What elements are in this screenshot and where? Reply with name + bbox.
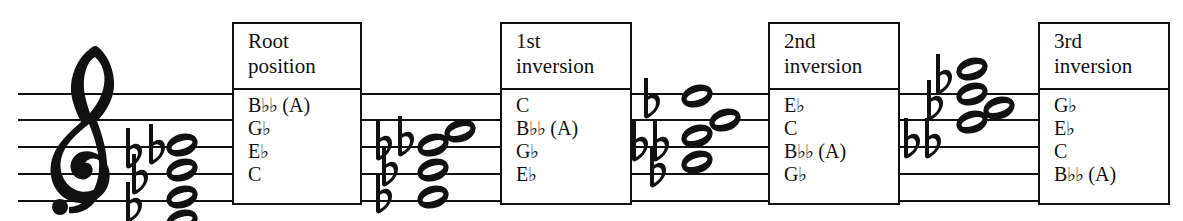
note-line: G♭ xyxy=(1054,94,1168,117)
note-line: G♭ xyxy=(248,117,360,140)
note-line: C xyxy=(1054,140,1168,163)
notehead xyxy=(416,185,450,209)
box-title-line2: inversion xyxy=(516,54,630,79)
chord-group-third-inversion xyxy=(900,0,1038,221)
flat-symbol: ♭♭ xyxy=(529,118,545,139)
note-letter: B xyxy=(1054,163,1067,185)
flat-icon xyxy=(372,171,394,215)
flat-symbol: ♭ xyxy=(1068,95,1076,116)
title-cell: 2nd inversion xyxy=(770,24,898,90)
notehead xyxy=(416,158,450,182)
note-letter: G xyxy=(1054,94,1068,116)
note-line: B♭♭ (A) xyxy=(516,117,630,140)
title-cell: Root position xyxy=(234,24,360,90)
note-letter: B xyxy=(516,117,529,139)
flat-symbol: ♭♭ xyxy=(261,95,277,116)
note-alt: (A) xyxy=(1083,163,1116,185)
flat-symbol: ♭♭ xyxy=(1067,164,1083,185)
note-line: E♭ xyxy=(516,163,630,186)
box-title-line1: 1st xyxy=(516,29,630,54)
note-alt: (A) xyxy=(813,140,846,162)
notehead xyxy=(165,133,199,157)
note-letter: C xyxy=(516,94,529,116)
note-letter: G xyxy=(784,163,798,185)
notehead xyxy=(165,158,199,182)
chord-group-root-position xyxy=(0,0,232,221)
flat-icon xyxy=(640,76,662,120)
note-alt: (A) xyxy=(545,117,578,139)
note-line: B♭♭ (A) xyxy=(248,94,360,117)
box-title-line2: position xyxy=(248,54,360,79)
note-letter: B xyxy=(248,94,261,116)
flat-symbol: ♭♭ xyxy=(797,141,813,162)
note-letter: E xyxy=(516,163,528,185)
notehead xyxy=(165,209,199,221)
flat-symbol: ♭ xyxy=(798,164,806,185)
flat-symbol: ♭ xyxy=(262,118,270,139)
note-letter: C xyxy=(784,117,797,139)
flat-icon xyxy=(900,116,922,160)
note-letter: G xyxy=(516,140,530,162)
flat-symbol: ♭ xyxy=(1066,118,1074,139)
note-line: B♭♭ (A) xyxy=(784,140,898,163)
label-box-root-position: Root position B♭♭ (A) G♭ E♭ C xyxy=(232,22,362,205)
notehead xyxy=(680,150,714,174)
notehead xyxy=(955,110,989,134)
notes-cell: B♭♭ (A) G♭ E♭ C xyxy=(234,90,360,186)
flat-icon xyxy=(646,145,668,189)
box-title-line2: inversion xyxy=(1054,54,1168,79)
notes-cell: G♭ E♭ C B♭♭ (A) xyxy=(1040,90,1168,186)
note-alt: (A) xyxy=(277,94,310,116)
notehead xyxy=(680,84,714,108)
note-line: E♭ xyxy=(248,140,360,163)
notehead xyxy=(680,124,714,148)
label-box-second-inversion: 2nd inversion E♭ C B♭♭ (A) G♭ xyxy=(768,22,900,205)
note-line: E♭ xyxy=(784,94,898,117)
note-line: C xyxy=(784,117,898,140)
box-title-line2: inversion xyxy=(784,54,898,79)
note-line: G♭ xyxy=(784,163,898,186)
note-line: B♭♭ (A) xyxy=(1054,163,1168,186)
note-letter: E xyxy=(1054,117,1066,139)
notes-cell: E♭ C B♭♭ (A) G♭ xyxy=(770,90,898,186)
notehead xyxy=(955,57,989,81)
label-box-third-inversion: 3rd inversion G♭ E♭ C B♭♭ (A) xyxy=(1038,22,1170,205)
note-line: E♭ xyxy=(1054,117,1168,140)
note-letter: B xyxy=(784,140,797,162)
note-letter: G xyxy=(248,117,262,139)
notehead xyxy=(416,133,450,157)
note-line: C xyxy=(248,163,360,186)
flat-symbol: ♭ xyxy=(530,141,538,162)
chord-group-second-inversion xyxy=(632,0,768,221)
box-title-line1: 2nd xyxy=(784,29,898,54)
note-letter: E xyxy=(248,140,260,162)
notehead xyxy=(165,185,199,209)
note-line: C xyxy=(516,94,630,117)
flat-symbol: ♭ xyxy=(260,141,268,162)
flat-symbol: ♭ xyxy=(796,95,804,116)
box-title-line1: 3rd xyxy=(1054,29,1168,54)
note-letter: E xyxy=(784,94,796,116)
box-title-line1: Root xyxy=(248,29,360,54)
label-box-first-inversion: 1st inversion C B♭♭ (A) G♭ E♭ xyxy=(500,22,632,205)
note-line: G♭ xyxy=(516,140,630,163)
notes-cell: C B♭♭ (A) G♭ E♭ xyxy=(502,90,630,186)
flat-symbol: ♭ xyxy=(528,164,536,185)
flat-icon xyxy=(122,180,144,221)
flat-icon xyxy=(921,116,943,160)
chord-group-first-inversion xyxy=(362,0,500,221)
title-cell: 1st inversion xyxy=(502,24,630,90)
note-letter: C xyxy=(248,163,261,185)
music-inversions-figure: Root position B♭♭ (A) G♭ E♭ C 1st invers… xyxy=(0,0,1183,221)
title-cell: 3rd inversion xyxy=(1040,24,1168,90)
note-letter: C xyxy=(1054,140,1067,162)
